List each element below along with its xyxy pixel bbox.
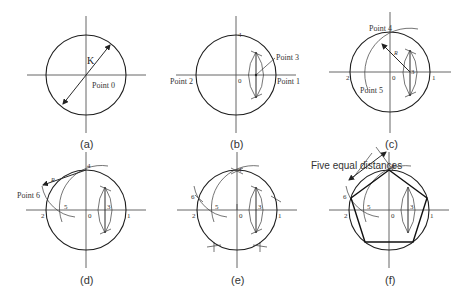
panel-d: R 4 Point 6 2 5 0 3 1 (d) [17, 152, 146, 286]
leader-line [256, 58, 275, 75]
panel-caption: (c) [385, 138, 398, 150]
label-1: 1 [278, 212, 282, 220]
radius-label: K [87, 55, 95, 66]
label-point-3: Point 3 [276, 53, 299, 62]
label-2: 2 [344, 212, 348, 220]
label-point-6: Point 6 [17, 191, 40, 200]
panel-c: R Point 4 3 2 0 1 Point 5 (c) [329, 12, 451, 150]
label-6: 6 [191, 193, 195, 201]
panel-b: 4 Point 3 Point 2 0 Point 1 (b) [170, 16, 300, 150]
arc-from-4 [194, 186, 227, 217]
label-point-4: Point 4 [369, 24, 392, 33]
panel-a: K Point 0 (a) [27, 16, 146, 150]
radius-R-arrow [43, 170, 86, 185]
label-0: 0 [238, 77, 242, 85]
label-0: 0 [392, 74, 396, 82]
label-2: 2 [41, 212, 45, 220]
arc-R [59, 165, 108, 222]
label-3: 3 [258, 203, 262, 211]
panel-caption: (f) [385, 274, 395, 286]
label-4: 4 [238, 31, 242, 39]
label-3: 3 [411, 68, 415, 76]
label-2: 2 [192, 212, 196, 220]
panel-caption: (d) [80, 274, 93, 286]
label-1: 1 [430, 212, 434, 220]
label-R: R [50, 177, 55, 183]
label-point-2: Point 2 [170, 77, 193, 86]
panel-caption: (a) [80, 138, 93, 150]
five-equal-distances-annotation: Five equal distances [311, 160, 402, 171]
label-4: 4 [87, 162, 91, 170]
label-4: 4 [238, 166, 242, 174]
center-label: Point 0 [92, 81, 115, 90]
label-1: 1 [127, 212, 131, 220]
label-5: 5 [367, 203, 371, 211]
label-3: 3 [107, 203, 111, 211]
label-point-1: Point 1 [277, 77, 300, 86]
label-6: 6 [343, 193, 347, 201]
panel-f: Five equal distances 4 6 2 5 0 3 1 (f) [311, 147, 449, 286]
pentagon-construction-diagram: K Point 0 (a) 4 Point 3 Point 2 0 Point … [0, 0, 460, 300]
label-0: 0 [239, 212, 243, 220]
label-0: 0 [391, 212, 395, 220]
label-0: 0 [88, 212, 92, 220]
label-4: 4 [391, 162, 395, 170]
label-3: 3 [410, 203, 414, 211]
label-5: 5 [64, 203, 68, 211]
label-2: 2 [346, 74, 350, 82]
label-1: 1 [432, 74, 436, 82]
panel-caption: (e) [231, 274, 244, 286]
label-5: 5 [215, 203, 219, 211]
bisector-arc-left [403, 50, 410, 96]
diameter-arrow [63, 45, 110, 104]
panel-caption: (b) [230, 138, 243, 150]
label-R: R [393, 50, 398, 56]
panel-e: 4 6 2 5 0 3 1 (e) [177, 152, 297, 286]
arc-from-4 [346, 186, 379, 217]
point-3-dot [255, 74, 257, 76]
label-point-5: Point 5 [360, 86, 383, 95]
